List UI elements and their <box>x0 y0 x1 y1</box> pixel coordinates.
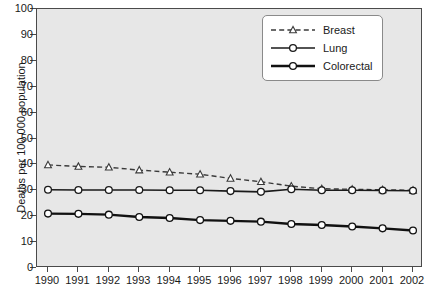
y-tick-label: 60 <box>7 107 33 117</box>
data-point <box>166 187 173 194</box>
x-tick-mark <box>351 267 352 272</box>
data-point <box>258 218 265 225</box>
data-point <box>227 188 234 195</box>
data-point <box>105 187 112 194</box>
data-point <box>288 221 295 228</box>
x-tick-mark <box>230 267 231 272</box>
legend-label: Lung <box>316 42 347 54</box>
x-tick-mark <box>412 267 413 272</box>
data-point <box>45 186 52 193</box>
data-point <box>288 186 295 193</box>
series-colorectal <box>45 210 417 234</box>
line-chart-figure: Deaths per 100 000 population 0102030405… <box>0 0 431 291</box>
x-tick-mark <box>138 267 139 272</box>
y-tick-label: 100 <box>7 3 33 13</box>
y-tick-label: 40 <box>7 158 33 168</box>
legend-label: Breast <box>316 24 355 36</box>
data-point <box>318 187 325 194</box>
y-tick-label: 10 <box>7 236 33 246</box>
x-tick-mark <box>321 267 322 272</box>
data-point <box>410 187 417 194</box>
x-tick-mark <box>108 267 109 272</box>
data-point <box>258 178 265 184</box>
legend-swatch-breast <box>270 23 316 37</box>
data-point <box>410 227 417 234</box>
y-tick-label: 70 <box>7 81 33 91</box>
data-point <box>258 188 265 195</box>
chart-legend: BreastLungColorectal <box>262 15 383 81</box>
y-tick-label: 80 <box>7 55 33 65</box>
circle-marker-icon <box>290 45 297 52</box>
data-point <box>75 210 82 217</box>
x-tick-mark <box>199 267 200 272</box>
data-point <box>197 217 204 224</box>
y-tick-label: 90 <box>7 29 33 39</box>
data-point <box>318 222 325 229</box>
x-tick-label: 2002 <box>392 274 431 287</box>
x-tick-mark <box>260 267 261 272</box>
y-tick-label: 30 <box>7 184 33 194</box>
data-point <box>166 215 173 222</box>
legend-label: Colorectal <box>316 60 373 72</box>
data-point <box>136 214 143 221</box>
x-tick-mark <box>77 267 78 272</box>
legend-swatch-lung <box>270 41 316 55</box>
circle-marker-icon <box>290 63 297 70</box>
data-point <box>197 187 204 194</box>
y-tick-label: 20 <box>7 210 33 220</box>
legend-item-lung[interactable]: Lung <box>270 39 373 57</box>
y-tick-label: 0 <box>7 262 33 272</box>
x-tick-mark <box>169 267 170 272</box>
data-point <box>105 211 112 218</box>
data-point <box>349 187 356 194</box>
data-point <box>45 210 52 217</box>
data-point <box>227 217 234 224</box>
data-point <box>75 187 82 194</box>
x-tick-mark <box>290 267 291 272</box>
y-axis: 0102030405060708090100 <box>0 0 33 291</box>
legend-swatch-colorectal <box>270 59 316 73</box>
x-tick-mark <box>47 267 48 272</box>
data-point <box>136 187 143 194</box>
legend-item-breast[interactable]: Breast <box>270 21 373 39</box>
data-point <box>379 187 386 194</box>
x-axis: 1990199119921993199419951996199719981999… <box>36 267 422 291</box>
y-tick-label: 50 <box>7 133 33 143</box>
legend-item-colorectal[interactable]: Colorectal <box>270 57 373 75</box>
data-point <box>379 225 386 232</box>
x-tick-mark <box>382 267 383 272</box>
data-point <box>349 223 356 230</box>
series-lung <box>45 186 417 195</box>
